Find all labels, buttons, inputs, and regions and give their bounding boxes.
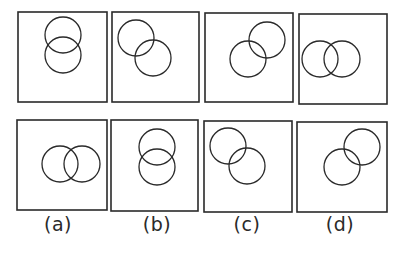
answer-figure-a	[17, 120, 107, 210]
circle-shape	[139, 149, 175, 185]
option-label-b: (b)	[143, 213, 171, 235]
answer-figure-b	[111, 120, 198, 211]
figure-frame	[112, 12, 199, 102]
figure-frame	[297, 122, 387, 212]
figure-frame	[17, 120, 107, 210]
circle-shape	[210, 128, 246, 164]
circle-shape	[64, 146, 100, 182]
circle-shape	[229, 148, 265, 184]
problem-figure-3	[205, 13, 293, 102]
circle-shape	[45, 37, 81, 73]
circle-shape	[42, 146, 78, 182]
problem-figure-4	[299, 14, 387, 104]
problem-figures-row	[18, 12, 387, 104]
figure-frame	[18, 12, 107, 102]
circle-shape	[344, 129, 380, 165]
option-label-c: (c)	[234, 213, 261, 235]
figure-frame	[204, 121, 292, 212]
answer-figure-c	[204, 121, 292, 212]
circle-shape	[230, 41, 266, 77]
answer-figure-d	[297, 122, 387, 212]
answer-figures-row	[17, 120, 387, 212]
option-label-d: (d)	[326, 213, 354, 235]
circle-shape	[139, 129, 175, 165]
circle-shape	[302, 41, 338, 77]
figure-frame	[111, 120, 198, 211]
figure-frame	[205, 13, 293, 102]
option-label-a: (a)	[44, 213, 72, 235]
circle-shape	[324, 149, 360, 185]
circle-shape	[249, 22, 285, 58]
figure-frame	[299, 14, 387, 104]
circle-shape	[45, 17, 81, 53]
circle-shape	[324, 41, 360, 77]
problem-figure-2	[112, 12, 199, 102]
problem-figure-1	[18, 12, 107, 102]
